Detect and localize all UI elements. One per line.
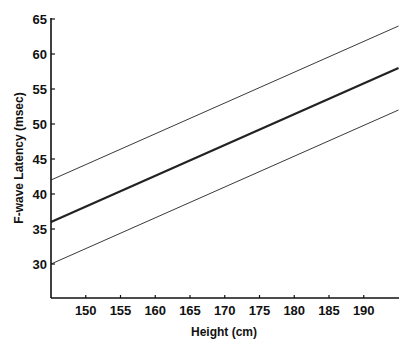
series-lines	[51, 26, 399, 264]
x-axis-title: Height (cm)	[191, 325, 257, 339]
x-tick-label: 155	[110, 303, 132, 318]
x-tick-label: 175	[249, 303, 271, 318]
y-tick-label: 55	[33, 82, 47, 97]
line-mean	[51, 68, 399, 222]
x-tick-label: 170	[214, 303, 236, 318]
y-tick-label: 40	[33, 187, 47, 202]
x-tick-label: 185	[318, 303, 340, 318]
x-tick-label: 165	[179, 303, 201, 318]
x-tick-label: 180	[283, 303, 305, 318]
y-axis-title: F-wave Latency (msec)	[12, 92, 26, 223]
y-tick-label: 60	[33, 47, 47, 62]
y-tick-label: 65	[33, 12, 47, 27]
line-lower-limit	[51, 110, 399, 264]
line-upper-limit	[51, 26, 399, 180]
x-tick-label: 150	[75, 303, 97, 318]
y-tick-label: 30	[33, 257, 47, 272]
y-tick-label: 35	[33, 222, 47, 237]
f-wave-latency-chart: 3035404550556065 15015516016517017518018…	[0, 0, 409, 351]
x-tick-label: 190	[353, 303, 375, 318]
y-tick-label: 50	[33, 117, 47, 132]
y-tick-label: 45	[33, 152, 47, 167]
x-tick-label: 160	[144, 303, 166, 318]
